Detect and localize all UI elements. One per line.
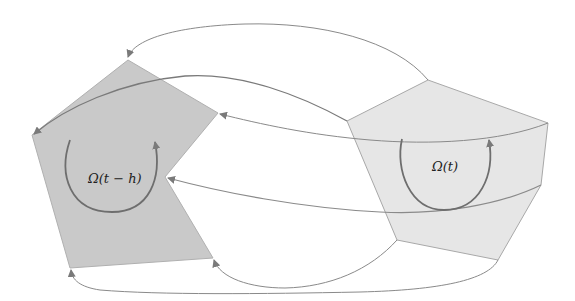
region-omega-t-minus-h [32,60,218,268]
label-omega-t: Ω(t) [432,159,458,174]
label-omega-t-minus-h: Ω(t − h) [88,171,142,186]
diagram-canvas [0,0,575,301]
arrow-top-to-top [128,24,428,80]
arrow-bottom-right-to-bottom-left [71,260,498,294]
arrow-bottom-left-to-bottom-right [214,240,397,288]
